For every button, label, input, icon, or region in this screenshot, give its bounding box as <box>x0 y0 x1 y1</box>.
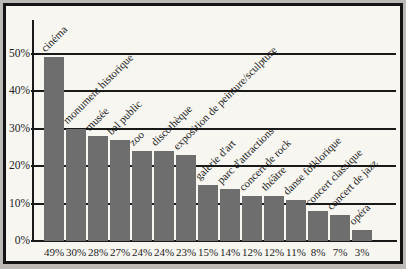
bar-8 <box>198 185 218 241</box>
chart-frame: 0%10%20%30%40%50%cinéma49%monument histo… <box>3 3 403 264</box>
bar-11 <box>264 196 284 241</box>
bar-12 <box>286 200 306 241</box>
bar-15 <box>352 230 372 241</box>
bar-7 <box>176 155 196 241</box>
bar-10 <box>242 196 262 241</box>
bar-3 <box>88 136 108 241</box>
y-tick-label-30: 30% <box>6 121 30 135</box>
y-tick-label-40: 40% <box>6 83 30 97</box>
y-tick-label-0: 0% <box>6 233 30 247</box>
bar-4 <box>110 140 130 241</box>
value-label-15: 3% <box>344 246 380 259</box>
y-tick-label-20: 20% <box>6 158 30 172</box>
bar-1 <box>44 57 64 241</box>
bar-13 <box>308 211 328 241</box>
bar-6 <box>154 151 174 241</box>
y-tick-label-10: 10% <box>6 196 30 210</box>
bar-2 <box>66 129 86 242</box>
gridline-50 <box>31 53 396 55</box>
y-tick-label-50: 50% <box>6 46 30 60</box>
page: { "chart_data": { "type": "bar", "title"… <box>0 0 406 269</box>
bar-5 <box>132 151 152 241</box>
bar-9 <box>220 189 240 242</box>
